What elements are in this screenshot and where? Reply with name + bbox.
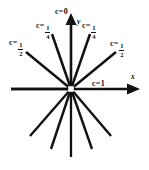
label-c-half-right: c= 1 2 <box>110 40 124 58</box>
label-c-quarter-left-equals: = <box>39 21 44 30</box>
ray-293deg <box>71 89 92 149</box>
label-c-half-left-equals: = <box>12 38 17 47</box>
ray-220deg <box>30 89 71 136</box>
fraction-denominator: 4 <box>92 34 96 41</box>
figure-canvas: c=0 c= 1 4 c= 1 4 c= 1 2 c= 1 2 c= <box>0 0 149 170</box>
x-axis-label: x <box>131 73 135 81</box>
origin-marker <box>68 86 74 92</box>
label-c-half-left: c= 1 2 <box>9 39 23 57</box>
ray-group <box>11 34 116 157</box>
label-c-quarter-right: c= 1 4 <box>82 22 96 40</box>
fraction-numerator: 1 <box>46 25 50 32</box>
ray-diagram-svg <box>0 0 149 170</box>
y-axis-label: y <box>77 18 80 26</box>
label-c-quarter-left: c= 1 4 <box>36 22 50 40</box>
fraction-denominator: 2 <box>19 51 23 58</box>
ray-247deg <box>51 89 71 149</box>
fraction-numerator: 1 <box>19 42 23 49</box>
fraction-denominator: 4 <box>46 34 50 41</box>
label-c-zero-value: 0 <box>64 7 68 16</box>
fraction-one-quarter-left: 1 4 <box>45 25 50 40</box>
label-c-one-value: 1 <box>101 79 105 88</box>
fraction-numerator: 1 <box>120 43 124 50</box>
fraction-one-half-right: 1 2 <box>119 43 124 58</box>
ray-320deg <box>71 89 111 136</box>
label-c-one: c=1 <box>92 80 105 88</box>
label-c-half-right-equals: = <box>113 39 118 48</box>
fraction-numerator: 1 <box>92 25 96 32</box>
label-c-zero: c=0 <box>55 8 68 16</box>
fraction-denominator: 2 <box>120 52 124 59</box>
fraction-one-half-left: 1 2 <box>18 42 23 57</box>
fraction-one-quarter-right: 1 4 <box>91 25 96 40</box>
label-c-quarter-right-equals: = <box>85 21 90 30</box>
x-axis-arrowhead <box>127 84 140 95</box>
